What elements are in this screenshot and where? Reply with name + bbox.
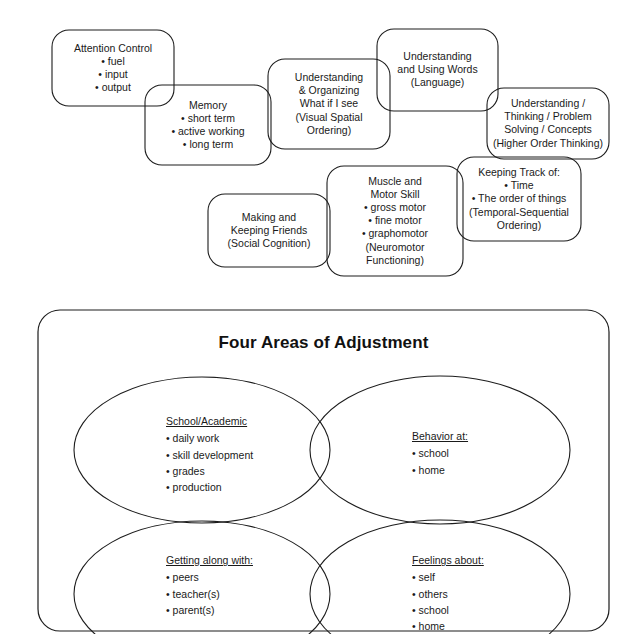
venn-group-behavior: Behavior at:• school• home xyxy=(412,428,468,478)
venn-group-item: • home xyxy=(412,618,484,634)
venn-group-getting-along: Getting along with:• peers• teacher(s)• … xyxy=(166,552,253,618)
venn-group-item: • grades xyxy=(166,463,253,479)
venn-group-item: • self xyxy=(412,569,484,585)
page-title: Four Areas of Adjustment xyxy=(38,333,609,353)
venn-group-heading: Feelings about: xyxy=(412,552,484,568)
venn-group-item: • daily work xyxy=(166,430,253,446)
venn-group-item: • school xyxy=(412,445,468,461)
venn-group-item: • production xyxy=(166,479,253,495)
venn-group-item: • home xyxy=(412,462,468,478)
venn-group-item: • skill development xyxy=(166,447,253,463)
four-areas-panel-border xyxy=(38,310,609,631)
venn-group-item: • others xyxy=(412,586,484,602)
venn-group-item: • teacher(s) xyxy=(166,586,253,602)
venn-group-item: • school xyxy=(412,602,484,618)
venn-group-heading: Behavior at: xyxy=(412,428,468,444)
venn-group-item: • parent(s) xyxy=(166,602,253,618)
venn-group-school-academic: School/Academic• daily work• skill devel… xyxy=(166,413,253,495)
venn-group-heading: Getting along with: xyxy=(166,552,253,568)
venn-group-feelings: Feelings about:• self• others• school• h… xyxy=(412,552,484,634)
venn-group-heading: School/Academic xyxy=(166,413,253,429)
venn-group-item: • peers xyxy=(166,569,253,585)
